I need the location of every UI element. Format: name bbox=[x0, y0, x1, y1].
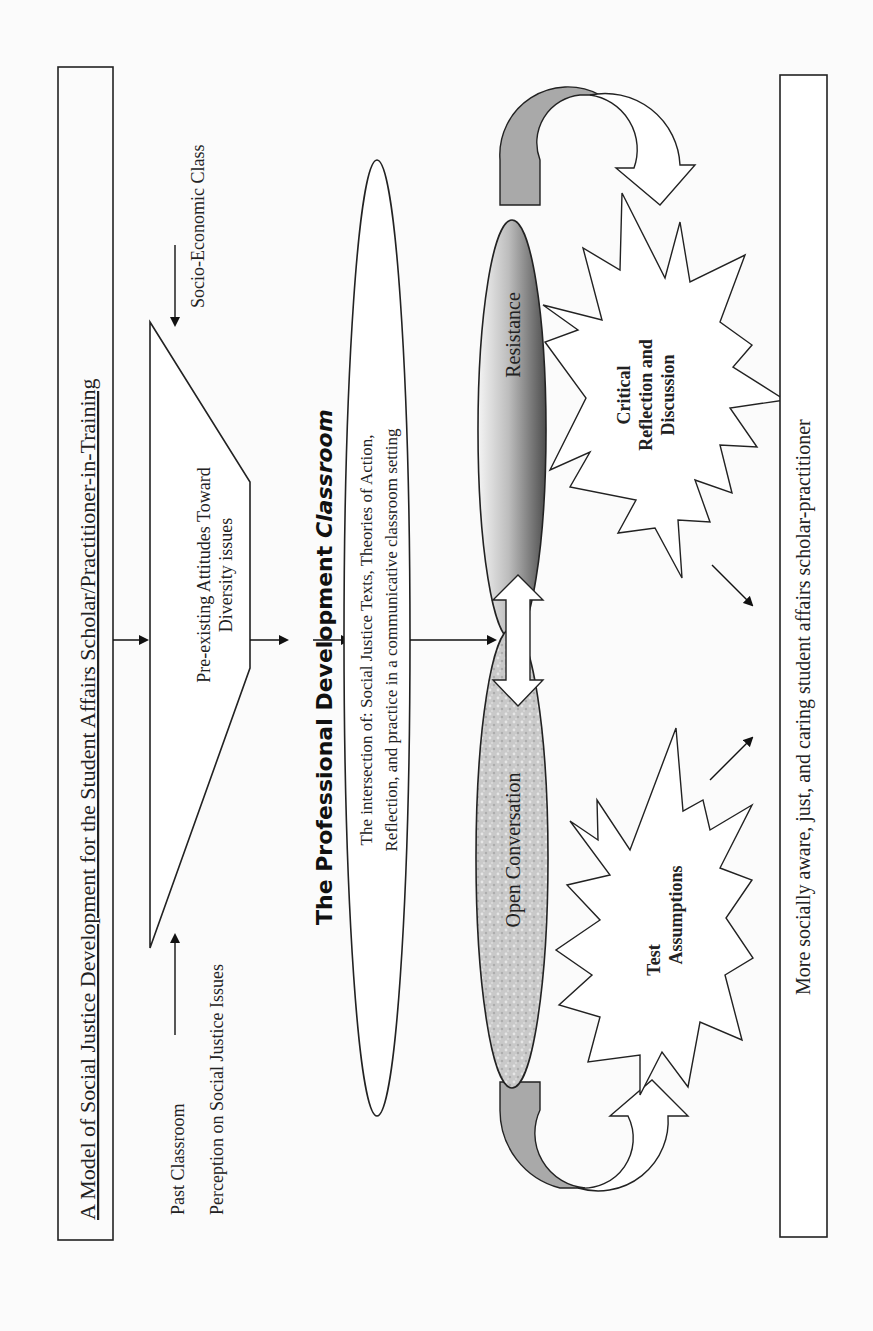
intersection-line1: The intersection of: Social Justice Text… bbox=[357, 435, 376, 846]
pre-existing-line2: Diversity issues bbox=[216, 518, 236, 633]
test-assumptions-line1: Test bbox=[644, 944, 664, 975]
diagram-canvas: A Model of Social Justice Development fo… bbox=[0, 0, 873, 1331]
intersection-ellipse: The intersection of: Social Justice Text… bbox=[344, 160, 410, 1116]
resistance-ellipse: Resistance bbox=[478, 220, 546, 640]
outcome-box: More socially aware, just, and caring st… bbox=[780, 75, 827, 1237]
open-conversation-label: Open Conversation bbox=[502, 773, 525, 928]
curved-arrow-top bbox=[500, 87, 695, 205]
arrow-reflection-to-outcome bbox=[712, 565, 752, 605]
intersection-line2: Reflection, and practice in a communicat… bbox=[382, 428, 401, 851]
arrow-assumptions-to-outcome bbox=[710, 738, 752, 780]
title-box: A Model of Social Justice Development fo… bbox=[58, 67, 113, 1240]
pre-existing-line1: Pre-existing Attitudes Toward bbox=[194, 467, 214, 682]
outcome-label: More socially aware, just, and caring st… bbox=[792, 419, 815, 995]
critical-reflection-line3: Discussion bbox=[658, 354, 678, 435]
perception-label: Perception on Social Justice Issues bbox=[207, 964, 227, 1215]
classroom-heading: The Professional Development Classroom bbox=[312, 409, 337, 925]
socio-economic-label: Socio-Economic Class bbox=[188, 145, 208, 308]
test-assumptions-line2: Assumptions bbox=[666, 865, 686, 964]
pre-existing-attitudes-box: Pre-existing Attitudes Toward Diversity … bbox=[150, 322, 250, 948]
critical-reflection-line1: Critical bbox=[614, 366, 634, 425]
diagram-svg: A Model of Social Justice Development fo… bbox=[0, 0, 873, 1331]
critical-reflection-star: Critical Reflection and Discussion bbox=[543, 193, 785, 578]
diagram-title: A Model of Social Justice Development fo… bbox=[75, 378, 100, 1220]
past-classroom-label: Past Classroom bbox=[168, 1103, 188, 1215]
curved-arrow-bottom bbox=[500, 1080, 688, 1191]
critical-reflection-line2: Reflection and bbox=[636, 339, 656, 451]
test-assumptions-star: Test Assumptions bbox=[556, 728, 753, 1095]
resistance-label: Resistance bbox=[502, 292, 524, 378]
